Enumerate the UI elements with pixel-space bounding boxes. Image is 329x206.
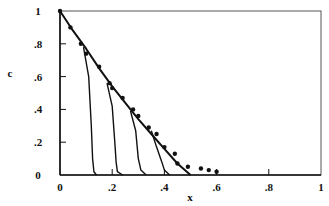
chart: 0.2.4.6.81 0.2.4.6.81 x c [0, 0, 329, 206]
x-axis-label: x [187, 191, 193, 203]
data-point [214, 170, 218, 174]
y-axis-label: c [8, 67, 13, 79]
y-tick-label: 1 [35, 5, 41, 17]
data-point [110, 86, 114, 90]
data-point [120, 96, 124, 100]
data-point [175, 161, 179, 165]
data-point [173, 151, 177, 155]
data-point [207, 168, 211, 172]
measured-points [58, 9, 219, 174]
x-axis-ticks: 0.2.4.6.81 [57, 169, 324, 193]
data-point [97, 65, 101, 69]
data-point [199, 166, 203, 170]
y-tick-label: 0 [35, 169, 41, 181]
x-tick-label: .2 [108, 181, 117, 193]
plot-frame [60, 11, 321, 175]
series-layer [58, 9, 219, 175]
data-point [79, 42, 83, 46]
y-tick-label: .2 [34, 136, 43, 148]
y-tick-label: .8 [34, 38, 43, 50]
y-axis-ticks: 0.2.4.6.81 [34, 5, 66, 181]
data-point [154, 132, 158, 136]
data-point [131, 107, 135, 111]
data-point [147, 125, 151, 129]
main-curve [60, 11, 191, 175]
data-point [68, 25, 72, 29]
x-tick-label: .6 [212, 181, 221, 193]
data-point [136, 114, 140, 118]
data-point [186, 165, 190, 169]
data-point [58, 9, 62, 13]
x-tick-label: 0 [57, 181, 63, 193]
x-tick-label: .8 [265, 181, 274, 193]
x-tick-label: .4 [160, 181, 169, 193]
y-tick-label: .4 [34, 103, 43, 115]
data-point [162, 145, 166, 149]
y-tick-label: .6 [34, 71, 43, 83]
drop-curve-1 [84, 47, 97, 175]
x-tick-label: 1 [318, 181, 324, 193]
plot-border [60, 11, 321, 175]
